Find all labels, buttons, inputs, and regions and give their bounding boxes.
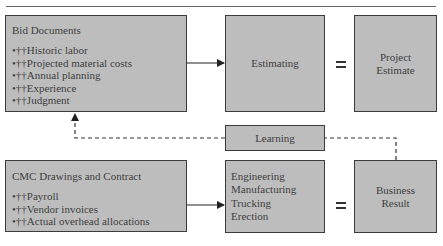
bid-documents-title: Bid Documents (12, 24, 180, 37)
dashed-arrow-learning-to-bid (75, 114, 225, 138)
list-item: •††Experience (12, 82, 180, 95)
business-result-box: Business Result (354, 160, 437, 233)
operations-item: Erection (231, 210, 324, 224)
list-item: •††Projected material costs (12, 57, 180, 70)
list-item: •††Judgment (12, 94, 180, 107)
list-item: •††Historic labor (12, 44, 180, 57)
learning-box: Learning (225, 125, 325, 151)
equals-sign-bottom (336, 202, 346, 210)
learning-label: Learning (255, 132, 295, 145)
business-result-line1: Business (376, 184, 415, 197)
project-estimate-line1: Project (380, 51, 411, 64)
list-item: •††Vendor invoices (12, 203, 180, 216)
bid-documents-box: Bid Documents •††Historic labor •††Proje… (5, 15, 187, 112)
project-estimate-line2: Estimate (376, 64, 415, 77)
operations-box: Engineering Manufacturing Trucking Erect… (225, 160, 325, 233)
list-item: •††Payroll (12, 190, 180, 203)
dashed-line-result-to-learning (325, 138, 396, 160)
estimating-box: Estimating (225, 15, 325, 112)
project-estimate-box: Project Estimate (354, 15, 437, 112)
operations-item: Trucking (231, 197, 324, 211)
cmc-drawings-title: CMC Drawings and Contract (12, 170, 180, 183)
operations-item: Engineering (231, 170, 324, 184)
estimating-label: Estimating (251, 57, 299, 70)
equals-sign-top (336, 61, 346, 69)
list-item: •††Annual planning (12, 69, 180, 82)
operations-item: Manufacturing (231, 183, 324, 197)
cmc-drawings-box: CMC Drawings and Contract •††Payroll •††… (5, 160, 187, 232)
bid-documents-list: •††Historic labor •††Projected material … (12, 44, 180, 107)
cmc-list: •††Payroll •††Vendor invoices •††Actual … (12, 190, 180, 228)
business-result-line2: Result (381, 197, 409, 210)
list-item: •††Actual overhead allocations (12, 215, 180, 228)
